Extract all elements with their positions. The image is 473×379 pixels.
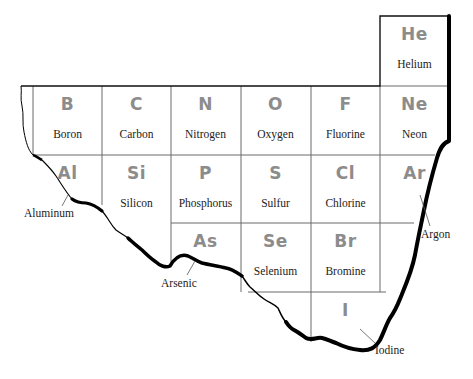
element-name: Bromine [311, 265, 380, 277]
callout-argon: Argon [421, 228, 450, 240]
element-symbol: Ar [380, 163, 449, 183]
element-iodine: I [311, 292, 380, 360]
element-symbol: P [171, 163, 240, 183]
element-bromine: Br Bromine [311, 223, 380, 291]
element-name: Sulfur [241, 197, 310, 209]
element-chlorine: Cl Chlorine [311, 155, 380, 223]
element-symbol: Se [241, 231, 310, 251]
element-name: Oxygen [241, 128, 310, 140]
element-sulfur: S Sulfur [241, 155, 310, 223]
element-nitrogen: N Nitrogen [171, 86, 240, 154]
element-symbol: Al [33, 163, 102, 183]
element-name: Fluorine [311, 128, 380, 140]
element-name: Nitrogen [171, 128, 240, 140]
element-symbol: S [241, 163, 310, 183]
callout-aluminum: Aluminum [24, 207, 74, 219]
element-name: Carbon [102, 128, 171, 140]
element-symbol: Cl [311, 163, 380, 183]
callout-iodine: Iodine [375, 344, 404, 356]
element-symbol: He [380, 24, 449, 44]
element-symbol: Br [311, 231, 380, 251]
element-name: Silicon [102, 197, 171, 209]
element-name: Neon [380, 128, 449, 140]
element-neon: Ne Neon [380, 86, 449, 154]
element-oxygen: O Oxygen [241, 86, 310, 154]
element-phosphorus: P Phosphorus [171, 155, 240, 223]
element-name: Phosphorus [171, 197, 240, 209]
element-fluorine: F Fluorine [311, 86, 380, 154]
element-boron: B Boron [33, 86, 102, 154]
element-name: Selenium [241, 265, 310, 277]
element-helium: He Helium [380, 16, 449, 84]
element-symbol: N [171, 94, 240, 114]
element-name: Helium [380, 58, 449, 70]
element-symbol: B [33, 94, 102, 114]
element-symbol: As [171, 231, 240, 251]
element-argon: Ar [380, 155, 449, 223]
element-symbol: Si [102, 163, 171, 183]
element-carbon: C Carbon [102, 86, 171, 154]
periodic-table-fragment: He Helium B Boron C Carbon N Nitrogen O … [0, 0, 473, 379]
element-silicon: Si Silicon [102, 155, 171, 223]
element-name: Chlorine [311, 197, 380, 209]
element-selenium: Se Selenium [241, 223, 310, 291]
callout-arsenic: Arsenic [161, 277, 197, 289]
element-symbol: O [241, 94, 310, 114]
element-symbol: F [311, 94, 380, 114]
element-name: Boron [33, 128, 102, 140]
element-symbol: I [311, 300, 380, 320]
element-symbol: C [102, 94, 171, 114]
element-symbol: Ne [380, 94, 449, 114]
